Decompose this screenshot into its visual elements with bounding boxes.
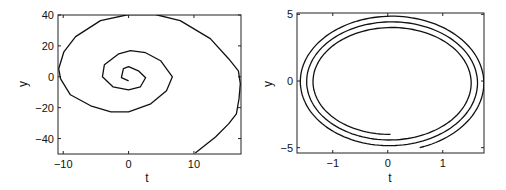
left-y-axis-label: y	[16, 81, 30, 87]
y-tick-label: 0	[48, 71, 54, 83]
left-spiral-line	[59, 15, 241, 154]
y-tick-label: −5	[280, 142, 293, 154]
x-tick-label: 0	[126, 158, 132, 170]
left-ticks: −1001040200−20−40	[35, 9, 241, 170]
y-tick-label: 5	[287, 8, 293, 20]
y-tick-label: −20	[35, 102, 54, 114]
left-x-axis-label: t	[145, 171, 149, 185]
y-tick-label: 20	[42, 40, 54, 52]
left-plot: −1001040200−20−40 t y	[16, 9, 241, 185]
y-tick-label: 0	[287, 75, 293, 87]
right-spiral-line	[300, 16, 484, 147]
figure: −1001040200−20−40 t y −10150−5 t y	[0, 0, 506, 190]
right-y-axis-label: y	[261, 81, 275, 87]
y-tick-label: −40	[35, 133, 54, 145]
x-tick-label: 0	[385, 157, 391, 169]
x-tick-label: −1	[326, 157, 339, 169]
x-tick-label: 10	[188, 158, 200, 170]
x-tick-label: −10	[54, 158, 73, 170]
left-axes-box	[58, 15, 241, 154]
right-plot: −10150−5 t y	[261, 8, 484, 185]
y-tick-label: 40	[42, 9, 54, 21]
x-tick-label: 1	[440, 157, 446, 169]
right-x-axis-label: t	[388, 171, 392, 185]
